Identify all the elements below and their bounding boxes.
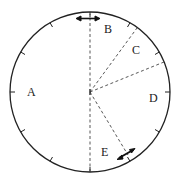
bottom-right-double-arrow-icon xyxy=(117,149,135,160)
sector-label-e: E xyxy=(101,145,108,159)
sector-label-b: B xyxy=(104,22,112,36)
sector-label-c: C xyxy=(132,43,140,57)
top-double-arrow-icon xyxy=(76,16,100,21)
sector-label-d: D xyxy=(149,91,158,105)
sector-label-a: A xyxy=(27,85,36,99)
circle-diagram: A B C D E xyxy=(0,0,175,181)
